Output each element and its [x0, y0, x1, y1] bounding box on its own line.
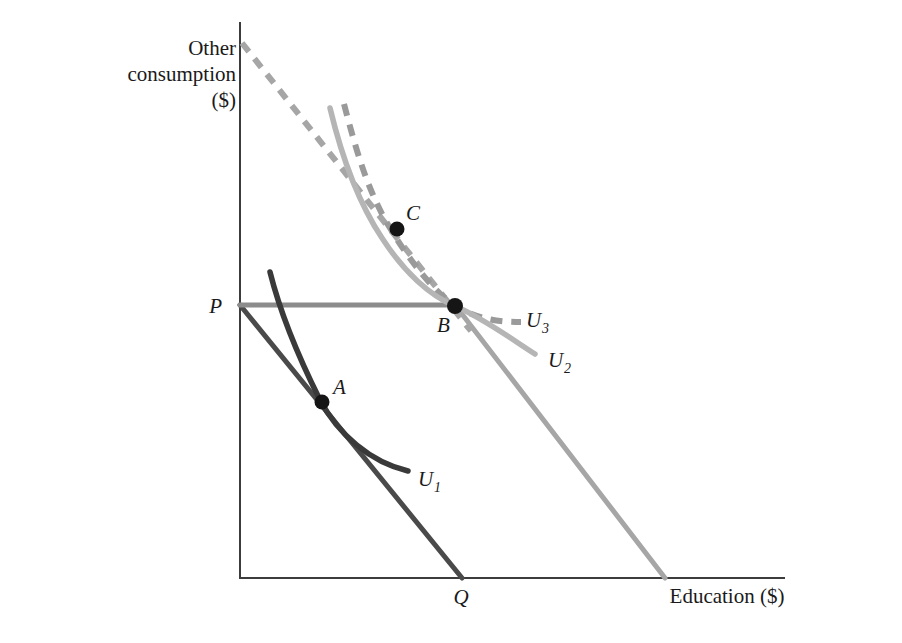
label-c: C	[406, 201, 421, 225]
x-axis-title: Education ($)	[670, 584, 785, 608]
label-a: A	[331, 375, 346, 399]
y-axis-title-line-1: Other	[188, 36, 236, 60]
curve-label-u2-subscript: 2	[564, 361, 571, 376]
y-axis-title-line-2: consumption	[128, 62, 237, 86]
curve-label-u3-subscript: 3	[541, 321, 549, 336]
figure-container: P Q A B C U 1 U 2 U 3 Other consumption …	[0, 0, 902, 643]
indifference-curve-u2	[330, 108, 535, 354]
subsidy-budget-sloped-segment	[455, 305, 665, 578]
axis-lines	[240, 22, 785, 578]
indifference-curve-chart: P Q A B C U 1 U 2 U 3 Other consumption …	[0, 0, 902, 643]
point-marker-b	[447, 298, 463, 314]
curve-label-u2: U	[548, 348, 565, 372]
point-marker-a	[315, 395, 330, 410]
curve-label-u1: U	[418, 467, 435, 491]
indifference-curve-u1	[270, 272, 408, 471]
curve-label-u3: U	[526, 308, 543, 332]
label-q: Q	[453, 585, 468, 609]
label-p: P	[208, 294, 222, 318]
y-axis-title-line-3: ($)	[212, 88, 237, 112]
point-marker-c	[390, 222, 405, 237]
indifference-curve-u3	[344, 104, 521, 322]
curve-label-u1-subscript: 1	[434, 480, 441, 495]
label-b: B	[437, 313, 450, 337]
